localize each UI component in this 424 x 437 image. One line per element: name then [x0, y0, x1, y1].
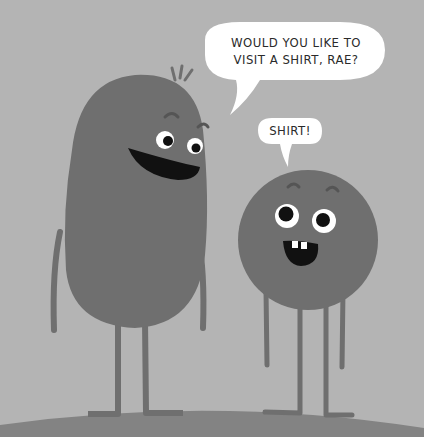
- round-character-body: [238, 170, 378, 310]
- speech-line-2: VISIT A SHIRT, RAE?: [212, 51, 380, 68]
- speech-text-round: SHIRT!: [260, 122, 320, 139]
- speech-line-1: WOULD YOU LIKE TO: [212, 34, 380, 51]
- speech-text-tall: WOULD YOU LIKE TO VISIT A SHIRT, RAE?: [212, 34, 380, 68]
- speech-line-shirt: SHIRT!: [260, 122, 320, 139]
